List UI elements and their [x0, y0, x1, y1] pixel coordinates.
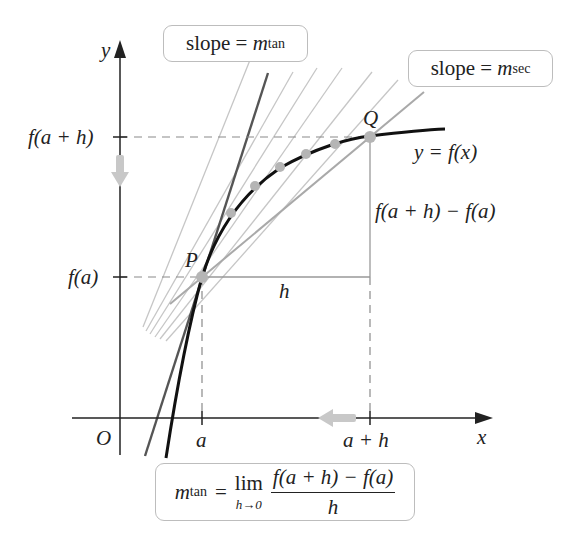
x-tick-a: a — [196, 430, 207, 451]
tangent-slope-callout: slope = mtan — [163, 25, 308, 62]
tangent-slope-var: m — [253, 31, 268, 56]
curve-label: y = f(x) — [414, 142, 477, 163]
formula-lim-text: lim — [235, 471, 263, 496]
axes — [72, 40, 493, 455]
formula-fraction: f(a + h) − f(a) h — [271, 465, 395, 520]
down-arrow-hint-icon — [111, 155, 129, 187]
y-tick-f-a-plus-h: f(a + h) — [28, 127, 94, 148]
left-arrow-hint-icon — [318, 409, 356, 427]
tangent-slope-prefix: slope = — [186, 31, 253, 56]
origin-label: O — [96, 428, 111, 449]
secant-slope-var: m — [497, 56, 512, 81]
rise-label: f(a + h) − f(a) — [375, 201, 495, 222]
y-axis-label: y — [101, 40, 110, 61]
formula-lhs-var: m — [175, 480, 190, 505]
tangent-slope-sub: tan — [268, 36, 285, 52]
formula-lim-under: h→0 — [236, 497, 262, 513]
formula-numerator: f(a + h) − f(a) — [271, 465, 395, 493]
x-tick-a-plus-h: a + h — [343, 430, 389, 451]
formula-limit: lim h→0 — [235, 471, 263, 513]
secant-slope-callout: slope = msec — [408, 50, 553, 87]
secant-slope-sub: sec — [512, 61, 530, 77]
formula-lhs-sub: tan — [190, 484, 207, 500]
point-p-label: P — [185, 250, 198, 271]
tangent-limit-formula: mtan = lim h→0 f(a + h) − f(a) h — [155, 463, 415, 521]
y-tick-f-a: f(a) — [68, 267, 98, 288]
point-q-marker — [364, 131, 376, 143]
run-label: h — [279, 281, 290, 302]
point-p-marker — [196, 271, 208, 283]
secant-line-pq — [170, 92, 424, 304]
x-axis-label: x — [477, 427, 486, 448]
secant-slope-prefix: slope = — [431, 56, 498, 81]
formula-equals: = — [215, 480, 227, 505]
formula-denominator: h — [328, 493, 339, 520]
point-q-label: Q — [363, 108, 378, 129]
